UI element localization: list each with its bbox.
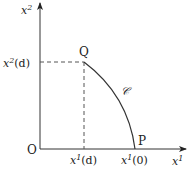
x-axis-label: x1: [172, 154, 183, 168]
y-axis-label: x2: [21, 3, 32, 17]
point-p-label: P: [138, 134, 146, 148]
tick-label-y-d: x2(d): [3, 56, 30, 70]
curve-label: 𝒞: [121, 85, 132, 98]
tick-label-x-d: x1(d): [70, 153, 97, 167]
origin-label: O: [27, 143, 37, 157]
point-q-label: Q: [79, 45, 89, 59]
tick-label-x-0: x1(0): [121, 153, 148, 167]
diagram-svg: O x2 x1 Q P 𝒞 x2(d) x1(d) x1(0): [0, 0, 190, 179]
curve-c: [84, 62, 135, 149]
diagram: O x2 x1 Q P 𝒞 x2(d) x1(d) x1(0): [0, 0, 190, 179]
